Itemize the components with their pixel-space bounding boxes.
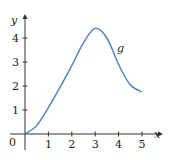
curve-label-g: g [117,42,124,55]
origin-label: 0 [9,136,16,149]
chart: 123451234 y x 0 g [0,0,170,160]
x-tick-label: 3 [92,138,99,151]
y-tick-label: 1 [12,104,19,117]
y-tick-label: 3 [12,56,19,69]
x-axis-label: x [154,128,161,141]
ticks: 123451234 [12,32,146,151]
y-tick-label: 4 [12,32,19,45]
x-tick-label: 5 [139,138,146,151]
y-tick-label: 2 [12,80,19,93]
x-tick-label: 1 [45,138,52,151]
y-axis-label: y [10,14,18,27]
x-tick-label: 4 [115,138,122,151]
y-axis-arrow-icon [23,14,28,19]
x-tick-label: 2 [68,138,75,151]
curve-g [25,28,142,134]
